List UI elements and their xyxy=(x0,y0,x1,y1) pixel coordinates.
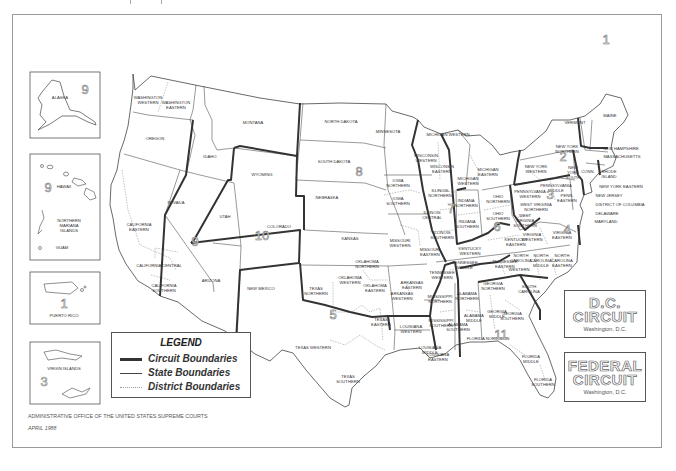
footer-source: ADMINISTRATIVE OFFICE OF THE UNITED STAT… xyxy=(28,413,208,419)
circuit-number: 10 xyxy=(255,228,269,243)
district-label: NORTHERN xyxy=(428,193,452,198)
district-label: ARIZONA xyxy=(202,278,221,283)
district-label: CONN. xyxy=(581,169,595,174)
puerto-rico-label: PUERTO RICO xyxy=(50,313,80,318)
district-label: EASTERN xyxy=(557,198,577,203)
district-label: SOUTHERN xyxy=(500,316,524,321)
district-label: MINNESOTA xyxy=(376,129,401,134)
district-label: CENTRAL xyxy=(422,215,442,220)
district-label: MONTANA xyxy=(243,120,264,125)
district-label: DISTRICT OF COLUMBIA xyxy=(595,202,644,207)
state-line-swatch xyxy=(120,373,142,374)
circuit-number: 6 xyxy=(493,219,500,234)
district-label: EASTERN xyxy=(506,242,526,247)
district-label: WESTERN xyxy=(138,100,159,105)
district-label: CAROLINA xyxy=(518,289,540,294)
district-label: WESTERN xyxy=(432,275,453,280)
district-label: WESTERN xyxy=(390,243,411,248)
legend-title: LEGEND xyxy=(112,337,250,348)
district-label: NEBRASKA xyxy=(316,195,339,200)
legend-item-district: District Boundaries xyxy=(118,381,248,395)
district-label: MIDDLE xyxy=(523,359,539,364)
district-label: SOUTHERN xyxy=(386,201,410,206)
district-label: WESTERN xyxy=(522,237,543,242)
dc-circuit-location: Washington, D.C. xyxy=(565,326,645,332)
district-label: NORTHERN xyxy=(481,286,505,291)
federal-circuit-title-2: CIRCUIT xyxy=(565,373,645,387)
legend-label: Circuit Boundaries xyxy=(148,353,237,364)
district-label: VERMONT xyxy=(565,120,586,125)
district-label: SOUTHERN xyxy=(336,379,360,384)
district-label: COLORADO xyxy=(267,224,292,229)
district-label: NORTHERN xyxy=(304,291,328,296)
circuit-number: 7 xyxy=(447,201,454,216)
district-label: TEXAS WESTERN xyxy=(295,345,331,350)
legend: LEGEND Circuit Boundaries State Boundari… xyxy=(111,332,251,398)
district-label: IDAHO xyxy=(203,154,217,159)
circuit-number: 1 xyxy=(602,32,609,47)
state-boundaries xyxy=(124,85,608,350)
legend-item-circuit: Circuit Boundaries xyxy=(118,353,248,367)
district-label: MICHIGAN WESTERN xyxy=(426,132,469,137)
hawaii-circuit-number: 9 xyxy=(44,180,51,195)
district-label: NORTHERN xyxy=(355,264,379,269)
district-label: NEW JERSEY xyxy=(595,193,622,198)
district-label: MASSACHUSETTS xyxy=(603,154,640,159)
district-label: WESTERN xyxy=(460,251,481,256)
district-line-swatch xyxy=(120,387,142,388)
district-label: NORTHERN xyxy=(486,199,510,204)
hawaii-label: HAWAII xyxy=(57,184,72,189)
virgin-islands-circuit-number: 3 xyxy=(40,374,47,389)
district-label: NEVADA xyxy=(168,200,185,205)
legend-label: District Boundaries xyxy=(148,381,240,392)
district-label: EASTERN xyxy=(420,252,440,257)
district-label: EASTERN xyxy=(129,227,149,232)
district-label: MIDDLE xyxy=(457,265,473,270)
virgin-islands-inset xyxy=(30,342,100,404)
district-label: SOUTHERN xyxy=(531,382,555,387)
legend-label: State Boundaries xyxy=(148,367,230,378)
district-label: EASTERN xyxy=(365,288,385,293)
district-label: OREGON xyxy=(146,136,165,141)
district-label: MIDDLE xyxy=(533,263,549,268)
legend-item-state: State Boundaries xyxy=(118,367,248,381)
district-label: EASTERN xyxy=(428,357,448,362)
district-label: WESTERN xyxy=(401,329,422,334)
alaska-circuit-number: 9 xyxy=(81,82,88,97)
district-label: WESTERN xyxy=(520,194,541,199)
federal-circuit-box: FEDERAL CIRCUIT Washington, D.C. xyxy=(564,352,646,402)
district-label: SOUTHERN xyxy=(513,223,537,228)
district-label: EASTERN xyxy=(432,169,452,174)
district-label: NORTHERN xyxy=(386,183,410,188)
district-label: WESTERN xyxy=(509,267,530,272)
district-label: NEW HAMPSHIRE xyxy=(603,146,639,151)
district-label: DELAWARE xyxy=(595,211,618,216)
dc-circuit-box: D.C. CIRCUIT Washington, D.C. xyxy=(564,290,646,338)
circuit-number: 4 xyxy=(563,222,570,237)
circuit-line-swatch xyxy=(120,358,142,361)
district-label: WESTERN xyxy=(416,158,437,163)
footer-date: APRIL 1988 xyxy=(28,425,56,431)
district-label: SOUTH DAKOTA xyxy=(318,159,351,164)
district-label: CAROLINA xyxy=(510,258,532,263)
federal-circuit-location: Washington, D.C. xyxy=(565,389,645,395)
circuit-number: 8 xyxy=(355,164,362,179)
district-label: NEW MEXICO xyxy=(247,286,275,291)
district-label: EASTERN xyxy=(166,105,186,110)
guam-label: GUAM xyxy=(56,245,69,250)
district-label: NEW YORK EASTERN xyxy=(599,184,643,189)
district-label: EASTERN xyxy=(371,322,391,327)
district-label: SOUTHERN xyxy=(446,327,470,332)
district-label: NORTHERN xyxy=(428,299,452,304)
district-label: NORTH DAKOTA xyxy=(325,119,358,124)
district-label: CALIFORNIA CENTRAL xyxy=(136,263,182,268)
district-label: SOUTH xyxy=(566,175,581,180)
district-label: WESTERN xyxy=(526,169,547,174)
district-label: NORTHERN xyxy=(455,296,479,301)
district-label: MIDDLE xyxy=(466,318,482,323)
dc-circuit-title-2: CIRCUIT xyxy=(565,310,645,324)
district-label: NORTHERN xyxy=(524,207,548,212)
district-label: EASTERN xyxy=(552,263,572,268)
district-label: WESTERN xyxy=(392,296,413,301)
district-label: MARYLAND xyxy=(594,219,617,224)
